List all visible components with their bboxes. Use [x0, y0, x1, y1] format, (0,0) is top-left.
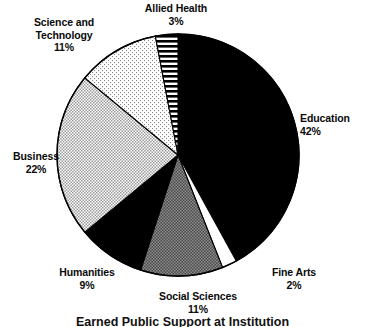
slice-label-education-value: 42% [300, 125, 362, 138]
slice-label-allied-health-value: 3% [124, 15, 228, 28]
slice-label-education-name: Education [300, 112, 362, 125]
slice-label-fine-arts: Fine Arts 2% [256, 266, 332, 291]
slice-label-humanities-name: Humanities [48, 266, 126, 279]
slice-label-social-sciences-value: 11% [146, 303, 250, 316]
slice-label-social-sciences-name: Social Sciences [146, 290, 250, 303]
slice-label-fine-arts-value: 2% [256, 279, 332, 292]
slice-label-science-and-technology-line1: Science and [12, 16, 116, 29]
slice-label-business-value: 22% [2, 163, 70, 176]
slice-label-science-and-technology: Science and Technology 11% [12, 16, 116, 54]
pie-chart-page: Allied Health 3% Science and Technology … [0, 0, 365, 327]
slice-label-humanities: Humanities 9% [48, 266, 126, 291]
slice-label-fine-arts-name: Fine Arts [256, 266, 332, 279]
pie-chart-figure: Allied Health 3% Science and Technology … [0, 0, 365, 327]
slice-label-humanities-value: 9% [48, 279, 126, 292]
slice-label-education: Education 42% [300, 112, 362, 137]
slice-label-science-and-technology-value: 11% [12, 41, 116, 54]
slice-label-business-name: Business [2, 150, 70, 163]
slice-label-science-and-technology-line2: Technology [12, 29, 116, 42]
chart-title: Earned Public Support at Institution [0, 315, 365, 327]
slice-label-business: Business 22% [2, 150, 70, 175]
slice-label-allied-health: Allied Health 3% [124, 2, 228, 27]
slice-label-allied-health-name: Allied Health [124, 2, 228, 15]
slice-label-social-sciences: Social Sciences 11% [146, 290, 250, 315]
